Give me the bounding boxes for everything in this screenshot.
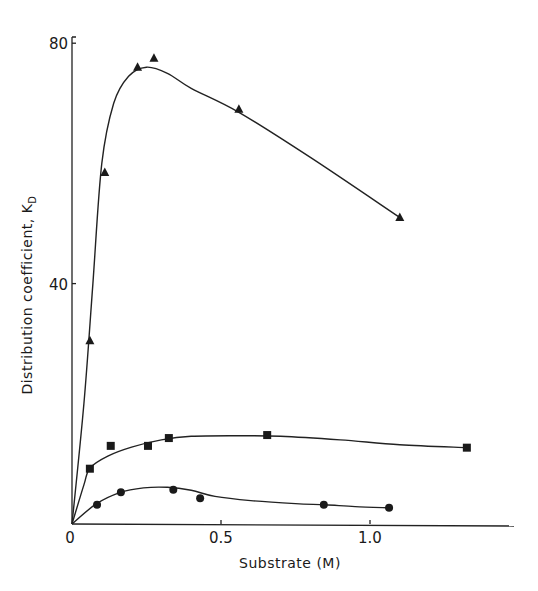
squares-fit-curve [72,436,467,524]
fitted-curves [72,67,467,524]
triangle-marker-icon [234,104,243,113]
triangle-marker-icon [395,212,404,221]
axes [72,37,514,526]
triangle-marker-icon [149,53,158,62]
data-markers [85,53,470,512]
triangles-fit-curve [72,67,400,524]
y-axis [72,37,76,524]
svg-text:Distribution coefficient, KD: Distribution coefficient, KD [19,195,38,394]
distribution-coefficient-chart: 00.51.04080 Substrate (M) Distribution c… [0,0,538,591]
x-axis [72,524,514,526]
x-axis-title: Substrate (M) [239,555,341,571]
square-marker-icon [165,434,173,442]
square-marker-icon [263,431,271,439]
circle-marker-icon [93,501,101,509]
square-marker-icon [144,442,152,450]
y-tick-label: 80 [49,35,68,53]
y-axis-title: Distribution coefficient, KD [19,195,38,394]
y-tick-label: 40 [49,276,68,294]
y-axis-title-subscript: D [27,195,38,203]
circle-marker-icon [385,504,393,512]
triangle-marker-icon [85,336,94,345]
x-tick-label: 1.0 [358,529,382,547]
x-tick-label: 0.5 [209,529,233,547]
circle-marker-icon [320,501,328,509]
square-marker-icon [463,444,471,452]
square-marker-icon [86,465,94,473]
circle-marker-icon [117,488,125,496]
circle-marker-icon [169,486,177,494]
ticks: 00.51.04080 [49,35,382,547]
y-axis-title-main: Distribution coefficient, K [19,203,35,394]
square-marker-icon [107,442,115,450]
circle-marker-icon [196,494,204,502]
triangle-marker-icon [133,62,142,70]
x-tick-label: 0 [65,529,75,547]
